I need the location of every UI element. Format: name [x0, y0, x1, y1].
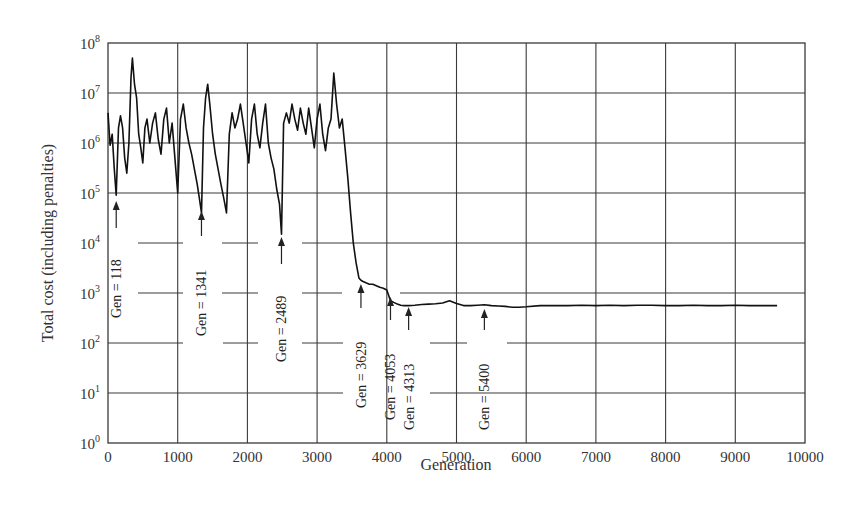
- x-tick-label: 10000: [786, 449, 824, 465]
- y-axis-title: Total cost (including penalties): [39, 144, 57, 342]
- arrow-up-icon: [198, 211, 205, 220]
- annotation-label: Gen = 3629: [354, 342, 369, 408]
- y-tick-label: 106: [80, 133, 100, 152]
- y-tick-label: 102: [80, 333, 100, 352]
- x-tick-label: 3000: [302, 449, 332, 465]
- annotation-label: Gen = 4313: [402, 364, 417, 430]
- arrow-up-icon: [113, 201, 120, 210]
- y-tick-label: 103: [80, 283, 100, 302]
- annotation-gen-118: Gen = 118: [109, 201, 124, 318]
- y-tick-label: 108: [80, 33, 100, 52]
- arrow-up-icon: [278, 237, 285, 246]
- annotation-label: Gen = 2489: [274, 296, 289, 362]
- x-tick-label: 8000: [651, 449, 681, 465]
- y-tick-label: 101: [80, 383, 100, 402]
- arrow-up-icon: [481, 309, 488, 318]
- annotation-gen-4053: Gen = 4053: [383, 297, 398, 420]
- x-tick-label: 4000: [372, 449, 402, 465]
- x-tick-label: 9000: [720, 449, 750, 465]
- y-tick-label: 105: [80, 183, 100, 202]
- y-tick-label: 100: [80, 433, 100, 452]
- x-tick-label: 0: [104, 449, 112, 465]
- gridlines: [108, 43, 805, 443]
- generation-annotations: Gen = 118Gen = 1341Gen = 2489Gen = 3629G…: [109, 201, 492, 430]
- annotation-gen-3629: Gen = 3629: [354, 284, 369, 408]
- annotation-label: Gen = 5400: [477, 364, 492, 430]
- y-tick-label: 104: [80, 233, 100, 252]
- annotation-label: Gen = 1341: [194, 270, 209, 336]
- arrow-up-icon: [405, 307, 412, 316]
- x-tick-label: 6000: [511, 449, 541, 465]
- annotation-gen-4313: Gen = 4313: [402, 307, 417, 430]
- annotation-label: Gen = 4053: [383, 354, 398, 420]
- y-tick-label: 107: [80, 83, 100, 102]
- annotation-gen-1341: Gen = 1341: [194, 211, 209, 336]
- x-tick-label: 7000: [581, 449, 611, 465]
- y-axis-ticks: 108107106105104103102101100: [80, 33, 100, 452]
- cost-vs-generation-chart: 108107106105104103102101100 010002000300…: [0, 0, 866, 528]
- annotation-label: Gen = 118: [109, 259, 124, 318]
- x-tick-label: 1000: [163, 449, 193, 465]
- arrow-up-icon: [357, 284, 364, 293]
- annotation-gen-2489: Gen = 2489: [274, 237, 289, 362]
- x-tick-label: 2000: [232, 449, 262, 465]
- x-axis-title: Generation: [420, 456, 491, 473]
- annotation-gen-5400: Gen = 5400: [477, 309, 492, 430]
